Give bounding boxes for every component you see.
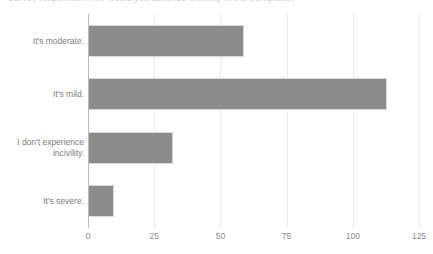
category-label-line: incivility.	[4, 148, 84, 159]
bar	[88, 132, 173, 164]
gridline	[419, 14, 420, 228]
y-axis-line	[88, 14, 89, 228]
category-label: It's moderate.	[4, 36, 88, 47]
chart-title-text: Survey responses: How would you describe…	[0, 0, 433, 3]
category-label-line: It's moderate.	[4, 36, 84, 47]
gridline	[287, 14, 288, 228]
x-tick-label: 125	[412, 231, 426, 241]
x-tick-label: 25	[149, 231, 158, 241]
x-axis-tick-labels: 0255075100125	[88, 231, 419, 247]
x-tick-label: 50	[216, 231, 225, 241]
x-tick-label: 100	[346, 231, 360, 241]
category-label: It's mild.	[4, 89, 88, 100]
bar	[88, 78, 387, 110]
bar-chart: Survey responses: How would you describe…	[0, 0, 433, 254]
category-label: I don't experienceincivility.	[4, 137, 88, 158]
bar	[88, 25, 244, 57]
chart-title-clipped: Survey responses: How would you describe…	[0, 0, 433, 5]
bar	[88, 185, 114, 217]
x-tick-label: 75	[282, 231, 291, 241]
category-axis-labels: It's moderate.It's mild.I don't experien…	[0, 14, 88, 228]
plot-area	[88, 14, 419, 228]
gridline	[353, 14, 354, 228]
x-tick-label: 0	[86, 231, 91, 241]
category-label-line: It's mild.	[4, 89, 84, 100]
category-label-line: I don't experience	[4, 137, 84, 148]
category-label: It's severe.	[4, 196, 88, 207]
category-label-line: It's severe.	[4, 196, 84, 207]
